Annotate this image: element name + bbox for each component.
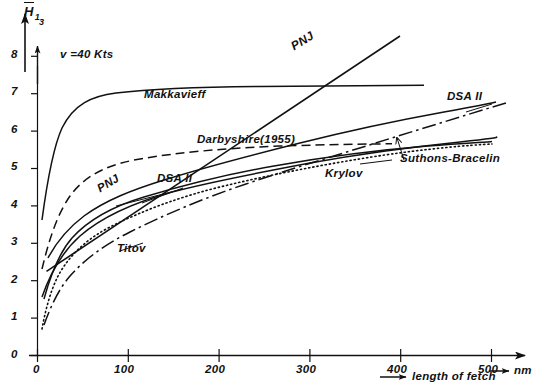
wind-speed-annotation: v =40 Kts [60,48,114,60]
ytick-6: 6 [11,123,18,135]
xtick-0: 0 [33,363,40,375]
curve-label-darbyshire: Darbyshire(1955) [197,133,295,145]
curve-label-titov: Titov [117,242,146,254]
xtick-200: 200 [205,363,225,375]
xtick-300: 300 [296,363,316,375]
ytick-1: 1 [11,310,18,322]
curve-label-krylov: Krylov [325,167,363,179]
curve-label-makkavieff: Makkavieff [144,88,206,100]
ytick-3: 3 [11,235,18,247]
curve-pnj-line [47,36,401,271]
ytick-4: 4 [11,198,18,210]
ytick-8: 8 [11,48,18,60]
x-axis-caption: length of fetch [412,370,496,382]
curve-label-dsa2-low: DSA II [157,172,192,184]
curve-label-dsa2-right: DSA II [447,90,482,102]
ytick-7: 7 [11,85,18,97]
y-axis-label: H13 [24,2,44,20]
xtick-100: 100 [114,363,134,375]
x-axis-unit: nm [514,364,532,376]
y-ticks [31,56,38,355]
ytick-2: 2 [11,273,18,285]
ytick-0: 0 [11,348,18,360]
xtick-400: 400 [387,363,407,375]
wave-height-fetch-chart: 8 7 6 5 4 3 2 1 0 0 100 200 300 400 500 … [0,0,551,391]
ytick-5: 5 [11,160,18,172]
y-axis-subscript-3: 3 [39,17,44,27]
y-axis-symbol: H [24,2,34,19]
curve-krylov [44,141,492,299]
leader-krylov [360,160,392,164]
curve-label-suthons-bracelin: Suthons-Bracelin [400,152,500,164]
